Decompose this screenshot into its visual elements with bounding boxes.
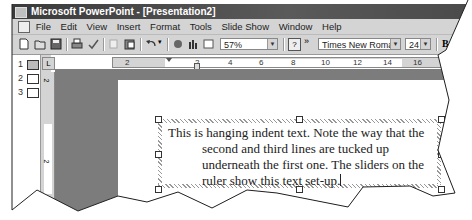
torn-edge-outline	[0, 0, 472, 220]
